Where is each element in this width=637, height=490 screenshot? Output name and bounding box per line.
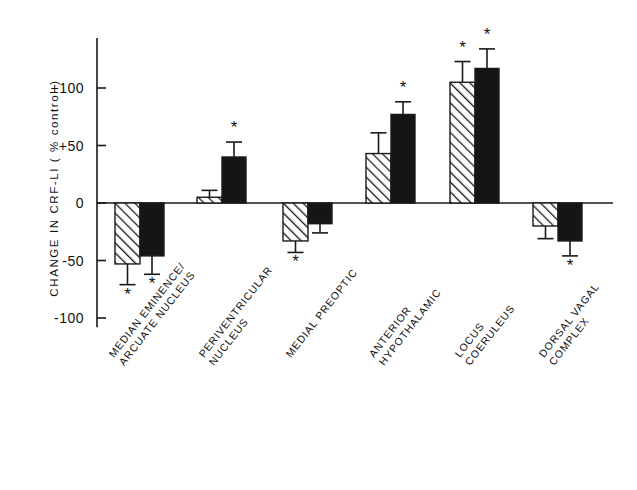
bar-solid-1 [222,157,246,203]
figure-panel: CHANGE IN CRF-LI ( % control ) +100+500-… [0,0,637,490]
bar-hatched-0 [115,203,140,264]
bar-solid-0 [140,203,164,256]
bar-solid-2 [308,203,332,224]
significance-asterisk-solid-5: * [567,256,574,275]
bar-hatched-2 [283,203,308,241]
significance-asterisk-solid-1: * [231,118,238,137]
bar-solid-4 [475,68,499,203]
bars-layer: ******** [115,25,582,304]
bar-hatched-1 [197,197,222,203]
bar-hatched-3 [366,154,391,203]
significance-asterisk-hatched-4: * [459,38,466,57]
significance-asterisk-solid-4: * [484,25,491,44]
significance-asterisk-solid-3: * [400,78,407,97]
bar-solid-5 [558,203,582,241]
bar-hatched-5 [533,203,558,226]
significance-asterisk-hatched-0: * [124,285,131,304]
significance-asterisk-hatched-2: * [292,252,299,271]
bar-solid-3 [391,114,415,203]
bar-hatched-4 [450,82,475,203]
bar-chart-plot: ******** [0,0,637,490]
